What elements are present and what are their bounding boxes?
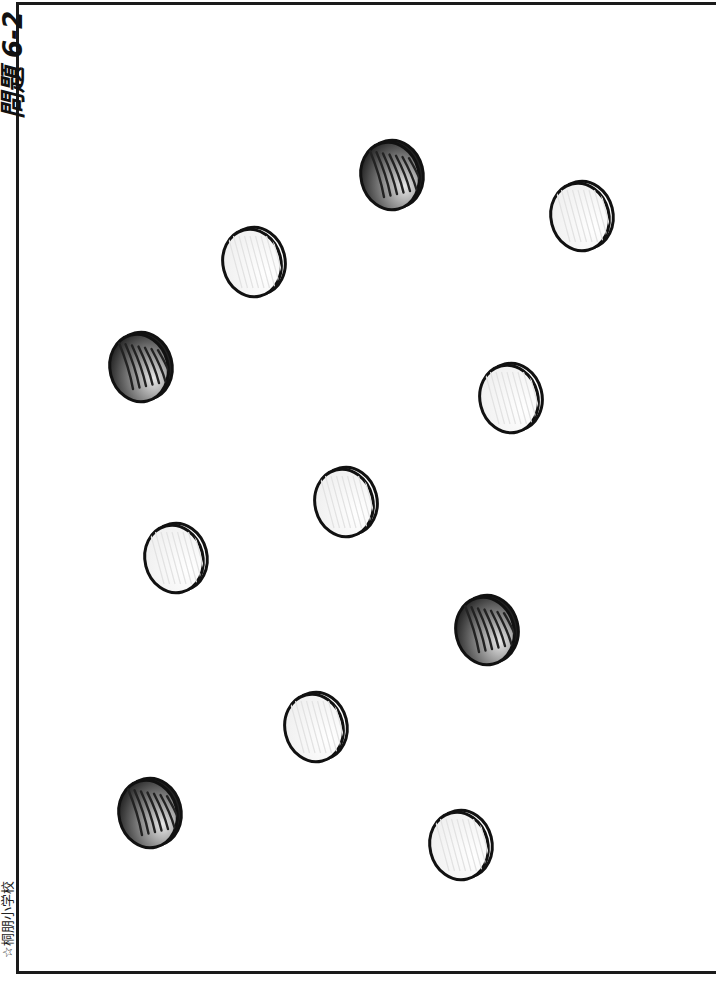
white-coin	[425, 807, 497, 883]
dark-coin	[114, 775, 186, 851]
dark-coin	[451, 592, 523, 668]
white-coin	[140, 520, 212, 596]
dark-coin	[105, 329, 177, 405]
white-coin	[475, 360, 547, 436]
white-coin	[546, 178, 618, 254]
white-coin	[280, 689, 352, 765]
worksheet-title: 問題 6-2	[0, 0, 27, 119]
white-coin	[218, 224, 290, 300]
white-coin	[310, 464, 382, 540]
school-credit: ☆桐朋小学校	[0, 838, 16, 958]
dark-coin	[356, 137, 428, 213]
